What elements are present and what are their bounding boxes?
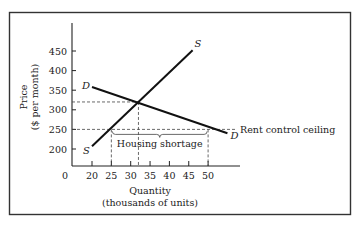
- y-tick-label: 350: [49, 85, 67, 96]
- housing-shortage-label: Housing shortage: [117, 138, 203, 149]
- x-tick-label: 30: [125, 170, 137, 181]
- y-tick-label: 400: [49, 65, 67, 76]
- y-axis-title: Price: [18, 84, 29, 109]
- demand-label-start: D: [81, 80, 90, 91]
- supply-curve: [92, 50, 193, 146]
- y-tick-label: 200: [49, 144, 67, 155]
- guide-lines: [72, 102, 236, 166]
- x-tick-label: 25: [105, 170, 117, 181]
- supply-label-start: S: [83, 145, 90, 156]
- demand-label-end: D: [229, 130, 238, 141]
- brace-shape: [112, 131, 207, 137]
- x-tick-label: 40: [163, 170, 175, 181]
- rent-control-ceiling-label: Rent control ceiling: [240, 124, 335, 135]
- x-tick-label: 35: [144, 170, 156, 181]
- x-tick-label: 45: [183, 170, 195, 181]
- x-tick-label: 50: [202, 170, 214, 181]
- y-tick-label: 250: [49, 124, 67, 135]
- shortage-brace: [112, 131, 207, 137]
- y-axis-subtitle: ($ per month): [29, 64, 40, 131]
- x-ticks: 20253035404550: [86, 161, 214, 181]
- supply-demand-chart: 200250300350400450 20253035404550 0 Quan…: [0, 0, 359, 228]
- x-axis-title: Quantity: [129, 185, 171, 196]
- x-axis-subtitle: (thousands of units): [102, 197, 198, 208]
- x-tick-label: 20: [86, 170, 98, 181]
- supply-label-end: S: [195, 38, 202, 49]
- y-tick-label: 450: [49, 46, 67, 57]
- y-tick-label: 300: [49, 104, 67, 115]
- x-origin-label: 0: [62, 170, 68, 181]
